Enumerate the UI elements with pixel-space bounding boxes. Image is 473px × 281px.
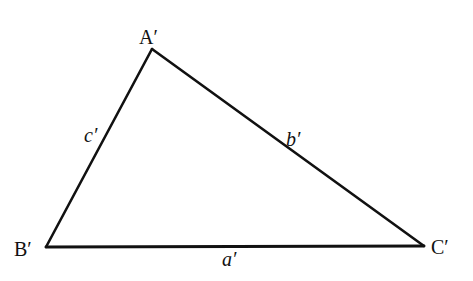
triangle-diagram: A′ B′ C′ a′ b′ c′: [0, 0, 473, 281]
side-a: [46, 246, 424, 247]
vertex-label-c: C′: [431, 236, 449, 258]
vertex-label-b: B′: [14, 238, 32, 260]
side-label-c: c′: [84, 124, 98, 146]
side-c: [46, 49, 152, 247]
side-label-b: b′: [286, 128, 301, 150]
vertex-label-a: A′: [139, 26, 158, 48]
side-label-a: a′: [222, 248, 237, 270]
